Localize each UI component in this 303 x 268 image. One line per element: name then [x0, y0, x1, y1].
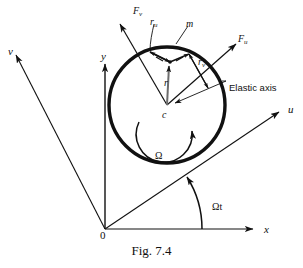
center-point-label: c: [162, 110, 166, 120]
figure-container: x y u v Fv Fu r ru rv m c 0 Elastic axis…: [0, 0, 303, 268]
force-u-sub: u: [244, 38, 248, 46]
vector-label-rv: rv: [198, 57, 205, 67]
force-label-v: Fv: [133, 6, 142, 16]
vector-label-ru: ru: [150, 17, 157, 27]
spin-angle-arc: [187, 177, 202, 229]
spin-angle-label: Ωt: [212, 202, 222, 212]
axis-label-x: x: [264, 224, 269, 235]
vector-ru-sub: u: [154, 21, 158, 29]
axis-u: [105, 112, 279, 229]
vector-r-base: r: [164, 77, 168, 88]
figure-caption: Fig. 7.4: [0, 243, 303, 259]
axis-label-u: u: [288, 104, 294, 115]
vector-label-r: r: [164, 78, 168, 88]
spin-rate-label: Ω: [155, 151, 162, 161]
vector-rv-sub: v: [202, 61, 205, 69]
origin-point-label: 0: [100, 230, 106, 241]
axis-label-v: v: [8, 46, 13, 57]
spin-rate-arc: [136, 122, 192, 162]
vector-ru: [150, 52, 170, 62]
mass-point-label: m: [186, 19, 193, 29]
force-v-sub: v: [139, 10, 142, 18]
figure-drawing: [0, 0, 303, 268]
axis-label-y: y: [101, 51, 106, 62]
elastic-axis-leader: [175, 81, 226, 103]
elastic-axis-label: Elastic axis: [229, 83, 277, 93]
force-label-u: Fu: [238, 34, 248, 44]
axis-v: [16, 55, 105, 229]
